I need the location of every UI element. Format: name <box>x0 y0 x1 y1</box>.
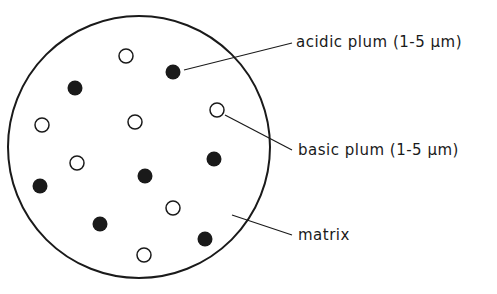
acidic-plum-particle <box>68 81 83 96</box>
acidic-plum-particle <box>207 152 222 167</box>
matrix-circle <box>8 16 270 278</box>
acidic-plum-particle <box>138 169 153 184</box>
acidic-plum-particle <box>93 217 108 232</box>
acidic-plum-particle <box>33 179 48 194</box>
basic-plum-label: basic plum (1-5 μm) <box>298 141 459 159</box>
particles <box>33 49 225 262</box>
acidic-plum-particle <box>198 232 213 247</box>
basic-plum-particle <box>119 49 133 63</box>
basic-plum-particle <box>137 248 151 262</box>
basic-leader-line <box>225 115 292 150</box>
acidic-plum-label: acidic plum (1-5 μm) <box>296 33 462 51</box>
acidic-leader-line <box>184 43 292 70</box>
matrix-leader-line <box>232 215 292 235</box>
basic-plum-particle <box>166 201 180 215</box>
matrix-label: matrix <box>298 226 350 244</box>
basic-plum-particle <box>35 118 49 132</box>
basic-plum-particle <box>70 156 84 170</box>
acidic-plum-particle <box>166 65 181 80</box>
basic-plum-particle <box>210 103 224 117</box>
basic-plum-particle <box>128 115 142 129</box>
